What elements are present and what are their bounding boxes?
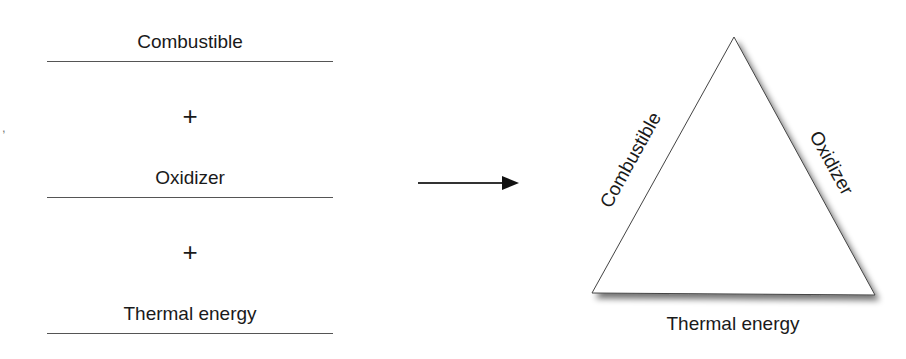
- diagram-graphics: Combustible Oxidizer Thermal energy: [0, 0, 906, 359]
- right-arrow-icon: [418, 176, 519, 190]
- triangle-side-thermal-energy: Thermal energy: [666, 313, 800, 334]
